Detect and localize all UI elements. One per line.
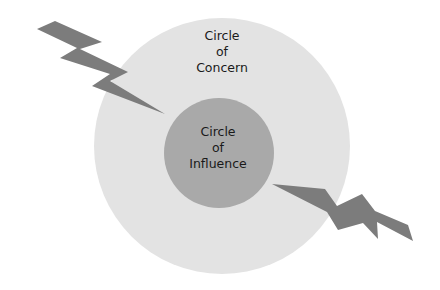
influence-line-1: Circle	[168, 124, 268, 140]
influence-line-2: of	[168, 140, 268, 156]
influence-line-3: Influence	[168, 156, 268, 172]
concern-line-3: Concern	[172, 60, 272, 76]
concern-line-1: Circle	[172, 28, 272, 44]
circle-of-influence-label: Circle of Influence	[168, 124, 268, 172]
circle-of-concern-label: Circle of Concern	[172, 28, 272, 76]
concern-line-2: of	[172, 44, 272, 60]
